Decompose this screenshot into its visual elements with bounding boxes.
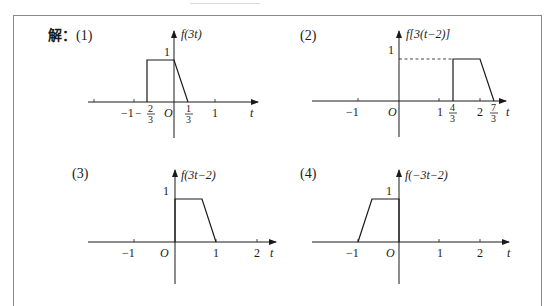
panel-2-tick-1: 1 <box>437 105 443 119</box>
panel-3-y-tick-1: 1 <box>163 184 169 198</box>
panel-1-tick-1: 1 <box>212 106 218 120</box>
panel-3-label: (3) <box>72 166 89 182</box>
panel-1-tick-neg1: −1 <box>121 106 134 120</box>
panel-2-frac2-num: 7 <box>491 102 496 113</box>
panel-1-frac-num: 2 <box>148 103 153 114</box>
panel-1-t-label: t <box>250 106 254 120</box>
panel-4-tick-2: 2 <box>477 246 483 260</box>
panel-4-origin-label: O <box>386 246 395 260</box>
panel-1-plot: f(3t) 1 −1 1 O t − 2 3 1 3 <box>88 27 258 138</box>
panel-2-origin-label: O <box>388 105 397 119</box>
panel-2-frac-num: 4 <box>450 102 455 113</box>
panel-2-tick-2: 2 <box>477 105 483 119</box>
panel-1-label: (1) <box>76 28 93 44</box>
panel-3-plot: f(3t−2) 1 −1 1 2 O t <box>88 168 276 284</box>
panel-1-y-tick-1: 1 <box>164 45 170 59</box>
panel-1-frac2-den: 3 <box>186 114 191 125</box>
panel-2-t-label: t <box>506 105 510 119</box>
panel-4-plot: f(−3t−2) 1 −1 1 2 O t <box>312 168 511 284</box>
panel-1-waveform <box>147 60 188 102</box>
panel-1-frac-den: 3 <box>148 114 153 125</box>
panel-2-frac-den: 3 <box>450 113 455 124</box>
panel-1-function-label: f(3t) <box>181 27 202 41</box>
panel-4-tick-1: 1 <box>437 246 443 260</box>
panel-3-function-label: f(3t−2) <box>181 168 216 182</box>
panel-3-t-label: t <box>270 246 274 260</box>
panel-3-origin-label: O <box>160 246 169 260</box>
panel-2-label: (2) <box>300 28 317 44</box>
panel-2-frac2-den: 3 <box>491 113 496 124</box>
panel-1-frac2-num: 1 <box>186 103 191 114</box>
panel-2-y-tick-1: 1 <box>388 43 394 57</box>
panel-2-waveform <box>453 59 494 101</box>
solution-label: 解： <box>48 27 76 43</box>
panel-4-t-label: t <box>507 246 511 260</box>
panel-4-function-label: f(−3t−2) <box>405 168 448 182</box>
panel-3-tick-2: 2 <box>254 246 260 260</box>
panel-2-function-label: f[3(t−2)] <box>406 27 450 41</box>
panel-4-tick-neg1: −1 <box>346 246 359 260</box>
panel-3-waveform <box>175 199 216 242</box>
panel-4-waveform <box>358 199 399 242</box>
panel-2-tick-neg1: −1 <box>346 105 359 119</box>
panel-4-label: (4) <box>300 166 317 182</box>
panel-3-tick-1: 1 <box>213 246 219 260</box>
panel-4-y-tick-1: 1 <box>386 184 392 198</box>
panel-1-origin-label: O <box>164 106 173 120</box>
panel-1-frac-sign: − <box>135 107 141 119</box>
panel-3-tick-neg1: −1 <box>122 246 135 260</box>
panel-2-plot: f[3(t−2)] 1 −1 1 2 O t 4 3 7 3 <box>312 27 510 137</box>
